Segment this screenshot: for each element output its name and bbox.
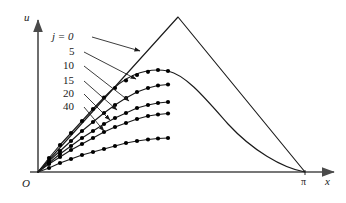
x-tick-label-pi: π <box>301 177 306 187</box>
leader-j-15 <box>84 81 117 110</box>
series-label-j-40: 40 <box>63 101 74 112</box>
series-label-j-10: 10 <box>63 60 74 71</box>
leader-j-0 <box>92 37 140 51</box>
data-curves <box>38 17 305 172</box>
curve-j-0 <box>38 17 305 172</box>
origin-label: O <box>22 178 30 189</box>
leader-lines <box>84 37 140 131</box>
figure-container: u x O π j = 0 5 10 15 20 40 <box>0 0 346 203</box>
x-axis-label: x <box>325 176 330 187</box>
series-label-j-0: j = 0 <box>52 31 73 42</box>
series-label-j-5: 5 <box>69 46 75 57</box>
y-axis-label: u <box>24 12 30 23</box>
series-label-j-20: 20 <box>63 88 74 99</box>
curve-j-40 <box>38 138 168 172</box>
series-label-j-15: 15 <box>63 75 74 86</box>
leader-j-5 <box>84 52 136 79</box>
